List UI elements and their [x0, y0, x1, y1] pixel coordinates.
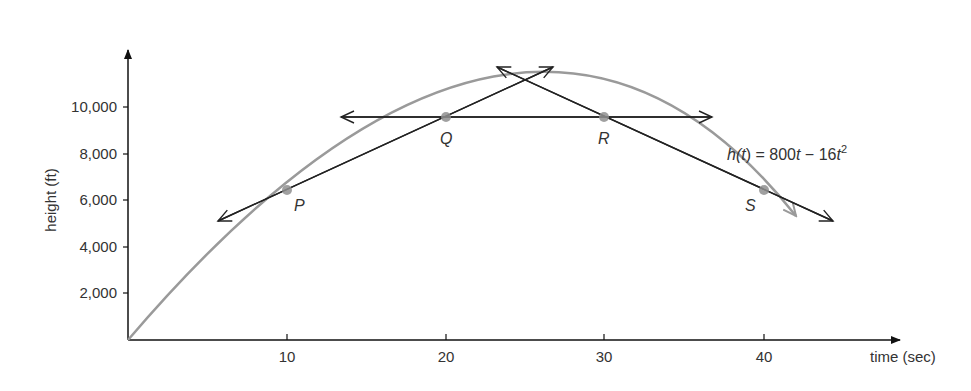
secant-qs-right — [497, 67, 833, 221]
y-axis — [123, 50, 128, 340]
y-tick-2000: 2,000 — [79, 284, 117, 301]
x-tick-30: 30 — [596, 348, 613, 365]
label-s: S — [745, 197, 756, 214]
parabola-curve — [128, 72, 796, 340]
eq-minus: − 16 — [800, 146, 836, 163]
point-s — [759, 185, 769, 195]
equation-label: h(t) = 800t − 16t2 — [727, 143, 847, 163]
y-tick-10000: 10,000 — [71, 98, 117, 115]
y-axis-title: height (ft) — [42, 168, 59, 231]
label-p: P — [294, 197, 305, 214]
eq-exp: 2 — [841, 143, 847, 155]
x-axis — [128, 334, 900, 340]
x-tick-10: 10 — [279, 348, 296, 365]
chart: 2,000 4,000 6,000 8,000 10,000 10 20 30 … — [0, 0, 971, 391]
y-tick-4000: 4,000 — [79, 238, 117, 255]
point-q — [441, 112, 451, 122]
point-r — [599, 112, 609, 122]
x-axis-title: time (sec) — [870, 348, 936, 365]
label-q: Q — [440, 130, 452, 147]
y-tick-6000: 6,000 — [79, 191, 117, 208]
label-r: R — [598, 130, 610, 147]
x-tick-20: 20 — [438, 348, 455, 365]
x-tick-40: 40 — [756, 348, 773, 365]
y-tick-8000: 8,000 — [79, 145, 117, 162]
secant-pr-right — [218, 67, 553, 221]
point-p — [282, 185, 292, 195]
eq-mid: ) = 800 — [746, 146, 796, 163]
